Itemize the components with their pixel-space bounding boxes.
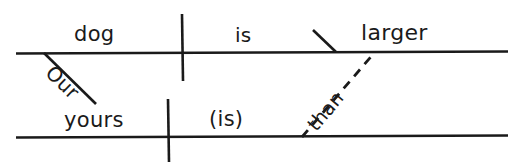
- main-clause-baseline: [16, 52, 508, 54]
- sentence-diagram: dog is larger Our yours (is) than: [0, 0, 517, 162]
- subordinate-clause-subject: yours: [64, 110, 124, 131]
- subordinate-subject-verb-divider: [168, 99, 169, 162]
- main-clause-verb: is: [235, 25, 252, 45]
- subordinate-clause-baseline: [16, 136, 508, 138]
- main-clause-complement: larger: [361, 22, 428, 44]
- main-subject-verb-divider: [182, 14, 183, 81]
- predicate-complement-slant: [313, 30, 336, 52]
- subordinate-clause-verb: (is): [209, 109, 243, 130]
- main-clause-subject: dog: [74, 24, 114, 45]
